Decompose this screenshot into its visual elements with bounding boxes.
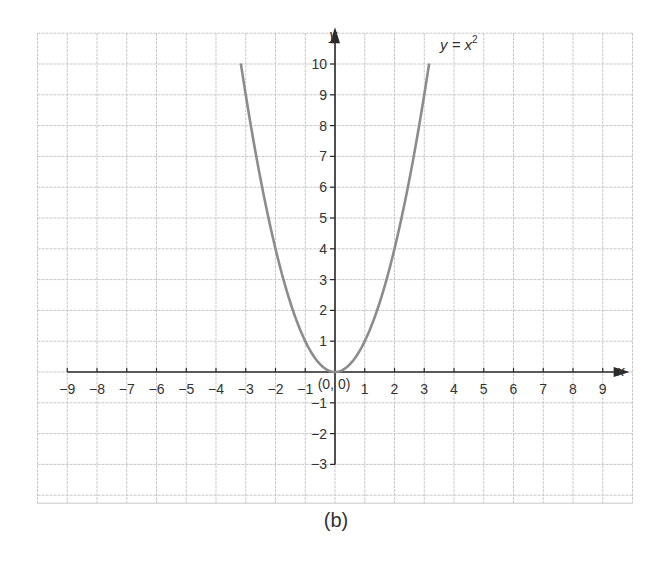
x-tick-label: 4	[450, 381, 458, 397]
parabola-figure: −9−8−7−6−5−4−3−2−1123456789−3−2−11234567…	[0, 0, 665, 574]
y-tick-label: 10	[311, 56, 327, 72]
x-tick-label: −6	[149, 381, 165, 397]
x-tick-label: −4	[208, 381, 224, 397]
x-tick-label: −9	[59, 381, 75, 397]
x-tick-label: 6	[510, 381, 518, 397]
x-tick-label: −3	[238, 381, 254, 397]
x-tick-label: 9	[599, 381, 607, 397]
y-tick-label: 5	[319, 210, 327, 226]
y-tick-label: 2	[319, 302, 327, 318]
curve-label: y = x2	[439, 34, 478, 53]
y-tick-label: 6	[319, 179, 327, 195]
y-tick-label: 7	[319, 148, 327, 164]
x-tick-label: 1	[361, 381, 369, 397]
y-tick-label: 8	[319, 118, 327, 134]
x-tick-label: 5	[480, 381, 488, 397]
x-tick-label: 7	[539, 381, 547, 397]
x-tick-label: 8	[569, 381, 577, 397]
figure-caption: (b)	[324, 509, 348, 531]
x-tick-label: 2	[391, 381, 399, 397]
x-tick-label: −2	[268, 381, 284, 397]
x-tick-label: 3	[420, 381, 428, 397]
x-tick-label: −5	[178, 381, 194, 397]
y-tick-label: 1	[319, 333, 327, 349]
x-tick-label: −8	[89, 381, 105, 397]
y-tick-label: 3	[319, 272, 327, 288]
y-tick-label: −2	[311, 426, 327, 442]
axes	[67, 27, 629, 464]
tick-labels: −9−8−7−6−5−4−3−2−1123456789−3−2−11234567…	[59, 56, 607, 472]
origin-label: (0, 0)	[318, 376, 351, 392]
x-tick-label: −7	[119, 381, 135, 397]
y-tick-label: 4	[319, 241, 327, 257]
y-tick-label: 9	[319, 87, 327, 103]
y-tick-label: −1	[311, 395, 327, 411]
y-tick-label: −3	[311, 456, 327, 472]
x-axis-label: x	[616, 362, 625, 379]
